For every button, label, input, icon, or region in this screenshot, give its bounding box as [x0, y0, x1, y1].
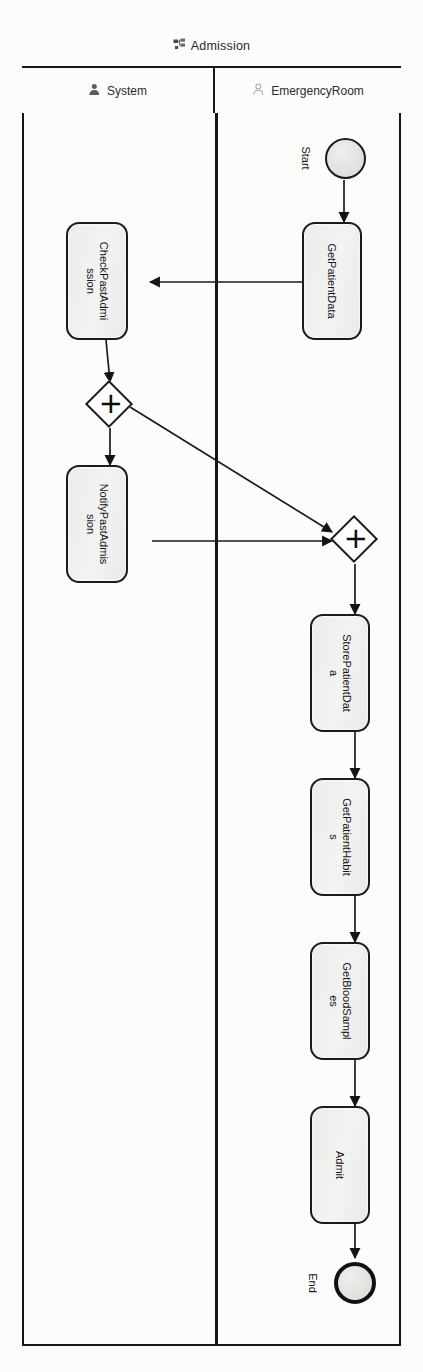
task-label: GetBloodSamples — [328, 960, 353, 1042]
task-label: GetPatientHabits — [328, 796, 353, 878]
task-label: Admit — [334, 1124, 347, 1206]
task-admit[interactable]: Admit — [310, 1106, 370, 1224]
lane-label-emergencyroom: EmergencyRoom — [271, 84, 364, 98]
user-filled-icon — [88, 83, 101, 99]
task-label: NotifyPastAdmission — [85, 483, 110, 565]
task-getpatienthabits[interactable]: GetPatientHabits — [310, 778, 370, 896]
lane-divider — [215, 113, 218, 1346]
lane-label-system: System — [107, 84, 147, 98]
lane-header-emergencyroom[interactable]: EmergencyRoom — [215, 68, 401, 113]
end-event-label: End — [307, 1273, 319, 1293]
task-notifypastadmission[interactable]: NotifyPastAdmission — [66, 465, 128, 583]
task-label: GetPatientData — [326, 240, 339, 322]
lane-header-system[interactable]: System — [22, 68, 215, 113]
start-event-label: Start — [300, 146, 312, 169]
task-getbloodsamples[interactable]: GetBloodSamples — [310, 942, 370, 1060]
task-storepatientdata[interactable]: StorePatientData — [310, 614, 370, 732]
task-label: StorePatientData — [328, 632, 353, 714]
task-getpatientdata[interactable]: GetPatientData — [302, 222, 362, 340]
task-checkpastadmission[interactable]: CheckPastAdmission — [66, 222, 128, 340]
lane-header-band: System EmergencyRoom — [22, 68, 401, 113]
pool-title-bar[interactable]: Admission — [22, 26, 401, 68]
start-event[interactable] — [325, 138, 366, 179]
process-diagram-icon — [173, 37, 186, 55]
user-outline-icon — [252, 83, 265, 99]
pool-title-label: Admission — [191, 39, 250, 53]
end-event[interactable] — [334, 1262, 376, 1304]
task-label: CheckPastAdmission — [85, 240, 110, 322]
